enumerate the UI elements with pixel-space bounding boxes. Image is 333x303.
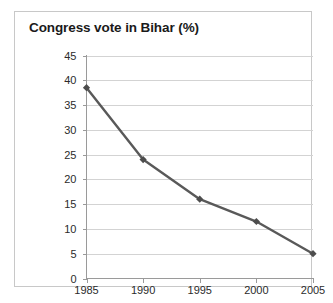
chart-frame: Congress vote in Bihar (%) 0510152025303…	[14, 11, 312, 287]
series-line	[87, 88, 314, 254]
x-axis-tick-mark	[313, 279, 314, 283]
line-series-layer	[15, 12, 313, 288]
series-markers	[83, 84, 317, 257]
